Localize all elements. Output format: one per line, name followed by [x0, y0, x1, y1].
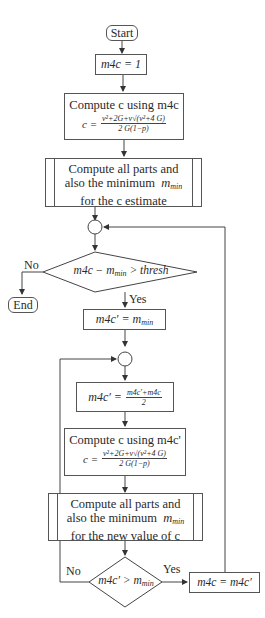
assign-1-lhs: m4c′ = m	[96, 312, 141, 326]
decision-2-no-label: No	[66, 564, 81, 579]
compute-c-numerator: v²+2G+v√(v²+4 G)	[101, 114, 166, 124]
decision-1-sub: min	[115, 269, 127, 278]
compute-c-box: Compute c using m4c c = v²+2G+v√(v²+4 G)…	[64, 93, 184, 140]
compute-c2-numerator: v²+2G+v√(v²+4 G)	[102, 449, 167, 459]
assign-1-sub: min	[141, 318, 153, 327]
end-label: End	[13, 298, 32, 312]
compute-c2-denominator: 2 G(1−p)	[119, 459, 150, 468]
compute-c-fraction: v²+2G+v√(v²+4 G) 2 G(1−p)	[101, 114, 166, 133]
compute-parts-1-box: Compute all parts and also the minimum m…	[45, 158, 202, 207]
end-terminal: End	[8, 297, 38, 313]
assign-2-label: m4c = m4c′	[197, 576, 251, 588]
compute-c-equation: c = v²+2G+v√(v²+4 G) 2 G(1−p)	[65, 114, 183, 133]
assign-1-box: m4c′ = mmin	[83, 309, 166, 330]
assign-2-box-visible: m4c = m4c′	[189, 572, 260, 593]
compute-c-denominator: 2 G(1−p)	[118, 124, 149, 133]
compute-parts-2-box: Compute all parts and also the minimum m…	[48, 493, 203, 541]
decision-1-prefix: m4c − m	[74, 264, 115, 276]
update-numerator: m4c′+m4c	[126, 388, 162, 398]
update-denominator: 2	[142, 398, 146, 407]
update-fraction: m4c′+m4c 2	[126, 388, 162, 407]
update-equation: m4c′ = m4c′+m4c 2	[77, 388, 173, 407]
decision-1-no-label: No	[24, 258, 39, 273]
compute-c2-title: Compute c using m4c'	[65, 433, 185, 447]
decision-1-yes-label: Yes	[129, 292, 146, 307]
update-lhs: m4c′ =	[88, 390, 122, 405]
init-label: m4c = 1	[101, 57, 141, 71]
junction-1	[88, 220, 102, 234]
decision-2-yes-label: Yes	[163, 562, 180, 577]
decision-1-text: m4c − mmin > thresh	[62, 264, 180, 278]
compute-c-lhs: c =	[82, 118, 97, 130]
update-box: m4c′ = m4c′+m4c 2	[76, 382, 174, 412]
arrow-no-end	[22, 272, 43, 294]
compute-c-title: Compute c using m4c	[65, 98, 183, 112]
init-box: m4c = 1	[95, 54, 147, 75]
compute-c2-lhs: c =	[83, 453, 98, 465]
compute-c2-equation: c = v²+2G+v√(v²+4 G) 2 G(1−p)	[65, 449, 185, 468]
junction-2	[118, 352, 132, 366]
compute-c2-box: Compute c using m4c' c = v²+2G+v√(v²+4 G…	[64, 428, 186, 476]
decision-2-prefix: m4c′ > m	[98, 574, 142, 586]
start-terminal: Start	[106, 25, 138, 41]
decision-1-suffix: > thresh	[127, 264, 169, 276]
compute-c2-fraction: v²+2G+v√(v²+4 G) 2 G(1−p)	[102, 449, 167, 468]
start-label: Start	[111, 26, 134, 40]
predefined-process-inner-border	[57, 494, 194, 540]
decision-2-text: m4c′ > mmin	[92, 574, 160, 588]
predefined-process-inner-border	[54, 159, 193, 206]
decision-2-sub: min	[142, 579, 154, 588]
